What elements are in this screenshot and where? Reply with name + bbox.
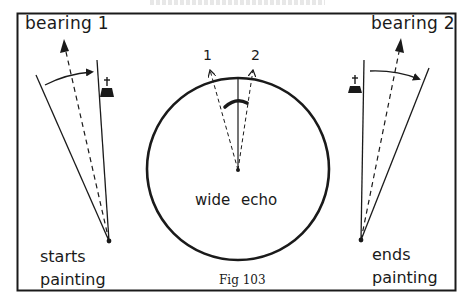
rotation-arrow-icon <box>370 71 419 79</box>
figure-103: bearing 1 bearing 2 1 2 wide echo starts… <box>0 0 470 305</box>
ray-2-label: 2 <box>251 48 260 62</box>
bearing-2-label: bearing 2 <box>371 15 455 32</box>
wide-echo-arc <box>225 101 247 107</box>
painting-label-right: painting <box>372 266 438 290</box>
ray-1-label: 1 <box>203 48 212 62</box>
figure-caption: Fig 103 <box>219 274 266 286</box>
bearing-1-label: bearing 1 <box>25 15 109 32</box>
bearing-2-line <box>361 52 399 240</box>
beam-edge-right <box>361 68 429 240</box>
beam-edge-left <box>361 60 364 240</box>
right-beam-diagram <box>348 38 429 242</box>
radar-scope <box>147 70 329 260</box>
left-beam-diagram <box>36 39 114 243</box>
starts-label: starts <box>40 245 86 269</box>
wide-echo-label: wide echo <box>195 193 277 208</box>
church-icon <box>100 77 114 97</box>
painting-label-left: painting <box>40 268 106 292</box>
rotation-arrow-icon <box>45 72 92 85</box>
beam-edge-left <box>36 75 109 241</box>
ends-label: ends <box>372 243 410 267</box>
bearing-1-arrowhead-icon <box>60 39 69 53</box>
scope-center-dot <box>236 168 240 172</box>
apex-dot <box>107 239 112 244</box>
church-icon <box>348 75 362 93</box>
ray-2-line <box>238 70 253 170</box>
ray-1-line <box>210 70 238 170</box>
apex-dot <box>359 238 364 243</box>
bearing-2-arrowhead-icon <box>395 38 404 53</box>
